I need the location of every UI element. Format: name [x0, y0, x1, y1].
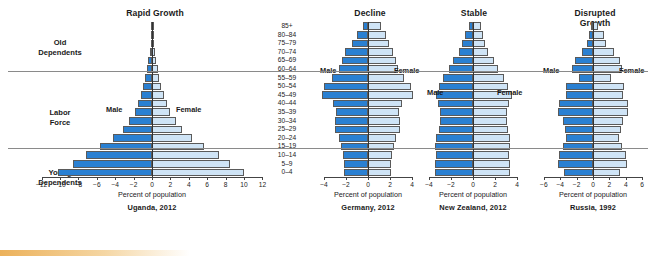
x-axis-tick — [544, 177, 545, 180]
bar-male — [565, 126, 593, 134]
x-axis-tick-label: 2 — [600, 181, 618, 188]
bar-male — [559, 151, 593, 159]
bar-male — [564, 169, 593, 177]
bar-female — [593, 108, 628, 116]
x-axis-label: Percent of population — [533, 190, 653, 199]
bar-female — [593, 31, 604, 39]
bar-male — [566, 83, 593, 91]
center-axis-line — [593, 22, 594, 177]
bar-female — [593, 100, 628, 108]
bar-female — [593, 91, 623, 99]
bar-male — [558, 160, 593, 168]
bar-female — [593, 151, 626, 159]
page-edge-decoration — [0, 250, 190, 256]
x-axis-tick — [577, 177, 578, 180]
x-axis-tick-label: 0 — [584, 181, 602, 188]
x-axis-tick — [560, 177, 561, 180]
bar-female — [593, 143, 622, 151]
x-axis-tick-label: −4 — [551, 181, 569, 188]
bar-female — [593, 160, 627, 168]
bar-female — [593, 65, 622, 73]
x-axis-tick-label: −6 — [535, 181, 553, 188]
bar-female — [593, 57, 620, 65]
bar-female — [593, 126, 621, 134]
pyramid-panel: Disrupted Growth−6−4−20246Percent of pop… — [0, 0, 656, 256]
bar-male — [575, 57, 593, 65]
bar-female — [593, 134, 619, 142]
x-axis-tick-label: 6 — [633, 181, 651, 188]
panel-caption: Russia, 1992 — [533, 203, 653, 212]
bar-male — [582, 48, 593, 56]
bar-male — [563, 117, 593, 125]
x-axis-tick-label: −2 — [568, 181, 586, 188]
x-axis-tick — [626, 177, 627, 180]
bar-male — [566, 134, 593, 142]
x-axis-tick — [593, 177, 594, 180]
bar-male — [579, 74, 593, 82]
bar-male — [559, 100, 593, 108]
bar-female — [593, 83, 624, 91]
bar-male — [566, 91, 593, 99]
bar-female — [593, 169, 620, 177]
bar-female — [593, 48, 614, 56]
x-axis-tick-label: 4 — [617, 181, 635, 188]
bar-male — [563, 143, 593, 151]
bar-female — [593, 117, 623, 125]
divider-young-dependents — [8, 148, 648, 149]
bar-male — [572, 65, 593, 73]
x-axis-tick — [642, 177, 643, 180]
population-pyramids-figure: Old Dependents Labor Force Young Depende… — [0, 0, 656, 256]
divider-old-dependents — [8, 71, 648, 72]
bar-male — [558, 108, 593, 116]
bar-female — [593, 40, 606, 48]
x-axis-tick — [609, 177, 610, 180]
bar-female — [593, 74, 611, 82]
